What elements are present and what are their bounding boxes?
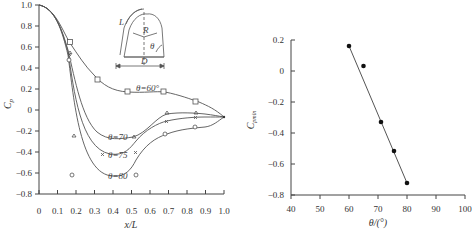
x-tick-label: 0.5 [126, 206, 138, 216]
y-tick-label: −0.8 [16, 189, 33, 199]
x-tick-label: 0.1 [52, 206, 63, 216]
y-tick-label: 1.0 [21, 0, 33, 10]
x-tick-label: 0.6 [144, 206, 156, 216]
left-x-ticks [39, 190, 224, 194]
y-tick-label: 0.2 [21, 84, 32, 94]
y-tick-label: 0.6 [21, 42, 33, 52]
data-point [405, 181, 410, 186]
right-y-ticks [291, 40, 295, 195]
x-tick-label: 0.3 [89, 206, 101, 216]
x-tick-label: 0.2 [70, 206, 81, 216]
y-tick-label: −0.4 [268, 128, 285, 138]
annotation-theta-80: θ=80 [108, 171, 128, 181]
y-tick-label: 0 [28, 105, 33, 115]
right-y-axis-title: Cpmin [245, 111, 257, 130]
x-tick-label: 90 [432, 204, 442, 214]
right-chart: 0.2 0 −0.2 −0.4 −0.6 −0.8 40 50 60 70 80… [245, 35, 472, 229]
curve-theta-80 [39, 5, 224, 176]
annotation-theta-75: θ=75 [108, 150, 128, 160]
markers-theta-75 [68, 53, 197, 156]
y-tick-label: −0.8 [268, 190, 285, 200]
right-x-ticks [291, 195, 465, 199]
x-tick-label: 0 [37, 206, 42, 216]
right-x-axis-title: θ/(°) [369, 217, 388, 229]
x-tick-label: 0.4 [107, 206, 119, 216]
left-x-axis-title: x/L [124, 219, 138, 230]
x-tick-label: 0.9 [200, 206, 212, 216]
x-tick-label: 80 [403, 204, 413, 214]
figure-canvas: 1.0 0.8 0.6 0.4 0.2 0 −0.2 −0.4 −0.6 −0.… [0, 0, 476, 233]
inset-label-D: D [140, 56, 148, 66]
x-tick-label: 1.0 [218, 206, 230, 216]
x-tick-label: 70 [374, 204, 384, 214]
data-point [361, 64, 366, 69]
inset-label-theta: θ [150, 41, 155, 51]
data-point [379, 120, 384, 125]
inset-label-R: R [142, 25, 149, 35]
svg-text:Cpmin: Cpmin [245, 111, 257, 130]
x-tick-label: 50 [316, 204, 326, 214]
y-tick-label: 0 [280, 66, 285, 76]
right-x-tick-labels: 40 50 60 70 80 90 100 [287, 204, 473, 214]
curve-theta-75 [39, 5, 224, 154]
left-chart: 1.0 0.8 0.6 0.4 0.2 0 −0.2 −0.4 −0.6 −0.… [2, 0, 230, 230]
y-tick-label: −0.6 [268, 159, 285, 169]
linear-fit-line [349, 46, 407, 183]
convergence-point [223, 116, 225, 118]
left-y-tick-labels: 1.0 0.8 0.6 0.4 0.2 0 −0.2 −0.4 −0.6 −0.… [16, 0, 33, 199]
y-tick-label: 0.4 [21, 63, 33, 73]
markers-theta-70 [68, 51, 198, 138]
x-tick-label: 60 [345, 204, 355, 214]
data-point [392, 149, 397, 154]
x-tick-label: 40 [287, 204, 297, 214]
y-tick-label: −0.2 [268, 97, 284, 107]
y-tick-label: −0.4 [16, 147, 33, 157]
left-y-axis-title: Cp [2, 98, 15, 109]
left-x-tick-labels: 0 0.1 0.2 0.3 0.4 0.5 0.6 0.7 0.8 0.9 1.… [37, 206, 230, 216]
right-y-tick-labels: 0.2 0 −0.2 −0.4 −0.6 −0.8 [268, 35, 285, 200]
x-tick-label: 0.8 [181, 206, 193, 216]
y-tick-label: 0.2 [273, 35, 284, 45]
markers-theta-60 [68, 40, 199, 105]
left-y-ticks [35, 5, 39, 194]
svg-text:Cp: Cp [2, 98, 15, 109]
markers-theta-80 [67, 58, 197, 177]
x-tick-label: 0.7 [163, 206, 175, 216]
inset-label-L: L [118, 17, 124, 27]
data-point [347, 44, 352, 49]
annotation-theta-70: θ=70 [108, 132, 128, 142]
annotation-theta-60: θ=60° [136, 83, 159, 93]
y-tick-label: −0.6 [16, 168, 33, 178]
y-tick-label: −0.2 [16, 126, 32, 136]
y-tick-label: 0.8 [21, 21, 33, 31]
x-tick-label: 100 [458, 204, 472, 214]
